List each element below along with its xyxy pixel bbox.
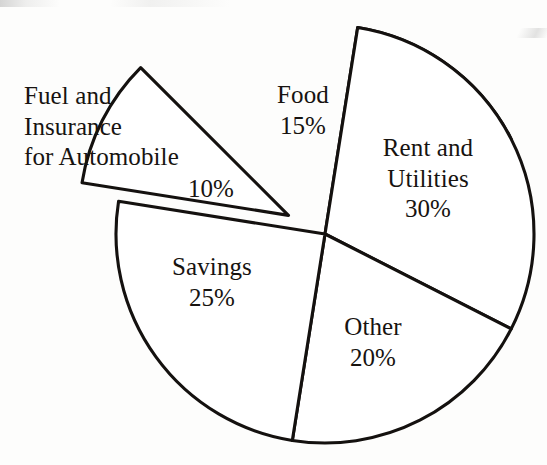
pie-chart-svg — [0, 0, 547, 465]
slice-label-rent: Rent and Utilities 30% — [362, 133, 494, 225]
slice-value-fuel: 10% — [176, 174, 246, 205]
pie-chart: Food 15% Rent and Utilities 30% Other 20… — [0, 0, 547, 465]
pie-slice-savings — [116, 201, 325, 440]
slice-label-savings: Savings 25% — [148, 252, 276, 313]
slice-label-food: Food 15% — [248, 80, 358, 141]
slice-label-fuel: Fuel and Insurance for Automobile — [24, 81, 240, 173]
slice-label-other: Other 20% — [318, 312, 428, 373]
